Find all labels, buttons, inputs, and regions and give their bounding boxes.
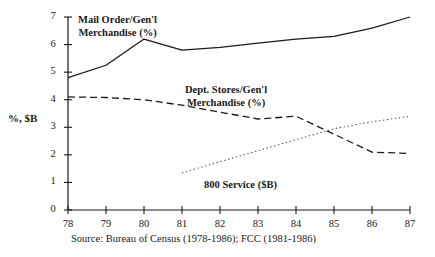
x-tick-label: 84 bbox=[286, 218, 306, 229]
x-tick-label: 87 bbox=[400, 218, 420, 229]
y-tick-label: 4 bbox=[46, 93, 60, 104]
x-tick-label: 78 bbox=[58, 218, 78, 229]
x-tick-label: 80 bbox=[134, 218, 154, 229]
mail-order-label-line1: Mail Order/Gen'l bbox=[78, 13, 157, 26]
y-tick-label: 7 bbox=[46, 10, 60, 21]
y-tick-label: 5 bbox=[46, 65, 60, 76]
x-tick-label: 83 bbox=[248, 218, 268, 229]
dept-stores-label: Dept. Stores/Gen'l Merchandise (%) bbox=[185, 83, 267, 109]
x-tick-label: 82 bbox=[210, 218, 230, 229]
x-tick-label: 85 bbox=[324, 218, 344, 229]
x-tick-label: 81 bbox=[172, 218, 192, 229]
y-tick-label: 3 bbox=[46, 120, 60, 131]
y-axis-title: %, $B bbox=[8, 112, 37, 124]
dept-stores-label-line2: Merchandise (%) bbox=[185, 96, 267, 109]
chart-figure: %, $B 78798081828384858687 01234567 Mail… bbox=[0, 0, 435, 257]
source-note: Source: Bureau of Census (1978-1986); FC… bbox=[71, 233, 316, 244]
x-axis bbox=[68, 206, 410, 214]
service-800-label: 800 Service ($B) bbox=[204, 178, 277, 191]
y-tick-label: 1 bbox=[46, 175, 60, 186]
y-tick-label: 2 bbox=[46, 148, 60, 159]
series-line bbox=[182, 116, 410, 173]
x-tick-label: 79 bbox=[96, 218, 116, 229]
service-800-label-line1: 800 Service ($B) bbox=[204, 178, 277, 191]
y-axis bbox=[64, 17, 72, 210]
y-tick-label: 6 bbox=[46, 38, 60, 49]
x-tick-label: 86 bbox=[362, 218, 382, 229]
mail-order-label: Mail Order/Gen'l Merchandise (%) bbox=[78, 13, 157, 39]
mail-order-label-line2: Merchandise (%) bbox=[78, 26, 157, 39]
y-tick-label: 0 bbox=[46, 203, 60, 214]
dept-stores-label-line1: Dept. Stores/Gen'l bbox=[185, 83, 267, 96]
